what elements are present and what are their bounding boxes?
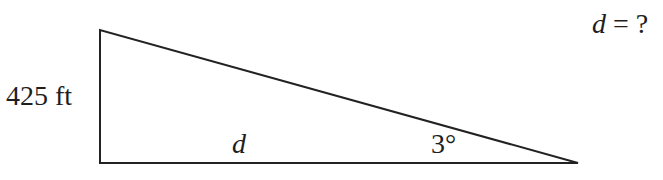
base-label: d <box>232 130 246 158</box>
triangle-diagram: 425 ft d 3° d = ? <box>0 0 663 180</box>
question-label: d = ? <box>592 10 648 38</box>
angle-label: 3° <box>431 130 456 158</box>
right-triangle <box>100 30 578 163</box>
question-rest: = ? <box>606 8 648 39</box>
triangle-figure <box>0 0 663 180</box>
height-label: 425 ft <box>6 82 72 110</box>
question-variable: d <box>592 8 606 39</box>
